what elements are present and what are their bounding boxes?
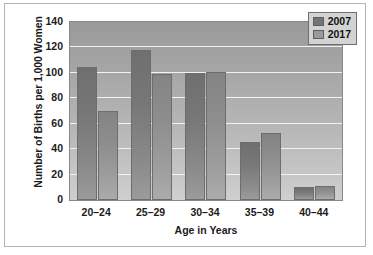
plot-area <box>69 21 343 201</box>
bar-2017-30-34 <box>206 72 226 200</box>
x-axis-tick-label: 35–39 <box>245 206 274 218</box>
bar-group <box>288 22 342 200</box>
x-axis-tick-label: 25–29 <box>136 206 165 218</box>
bar-group <box>233 22 287 200</box>
bar-group <box>179 22 233 200</box>
x-axis-tick-labels: 20–2425–2930–3435–3940–44 <box>69 206 343 220</box>
bars-layer <box>70 22 342 200</box>
bar-2007-30-34 <box>185 73 205 200</box>
x-axis-tick-label: 40–44 <box>299 206 328 218</box>
bar-2017-25-29 <box>152 74 172 200</box>
legend-item-2017[interactable]: 2017 <box>313 28 351 41</box>
x-axis-tick-label: 30–34 <box>190 206 219 218</box>
x-axis-tick-label: 20–24 <box>82 206 111 218</box>
bar-2007-25-29 <box>131 50 151 200</box>
legend-label-2017: 2017 <box>328 28 351 41</box>
y-axis-tick-label: 20 <box>27 168 63 180</box>
bar-2007-40-44 <box>294 187 314 200</box>
y-axis-tick-label: 80 <box>27 91 63 103</box>
y-axis-tick-label: 40 <box>27 142 63 154</box>
legend-item-2007[interactable]: 2007 <box>313 15 351 28</box>
y-axis-tick-label: 100 <box>27 66 63 78</box>
chart-figure-frame: Number of Births per 1,000 Women 0204060… <box>4 3 366 247</box>
bar-2017-20-24 <box>98 111 118 200</box>
bar-group <box>70 22 124 200</box>
bar-group <box>124 22 178 200</box>
y-axis-tick-label: 120 <box>27 40 63 52</box>
bar-2017-35-39 <box>261 133 281 200</box>
chart-legend: 2007 2017 <box>308 12 357 45</box>
bar-2007-20-24 <box>77 67 97 201</box>
y-axis-tick-labels: 020406080100120140 <box>27 17 63 207</box>
legend-swatch-2017-icon <box>313 30 324 39</box>
y-axis-tick-label: 60 <box>27 117 63 129</box>
bar-2007-35-39 <box>240 142 260 200</box>
x-axis-title: Age in Years <box>69 224 343 236</box>
legend-label-2007: 2007 <box>328 15 351 28</box>
legend-swatch-2007-icon <box>313 17 324 26</box>
y-axis-tick-label: 140 <box>27 15 63 27</box>
y-axis-tick-label: 0 <box>27 193 63 205</box>
bar-2017-40-44 <box>315 186 335 200</box>
